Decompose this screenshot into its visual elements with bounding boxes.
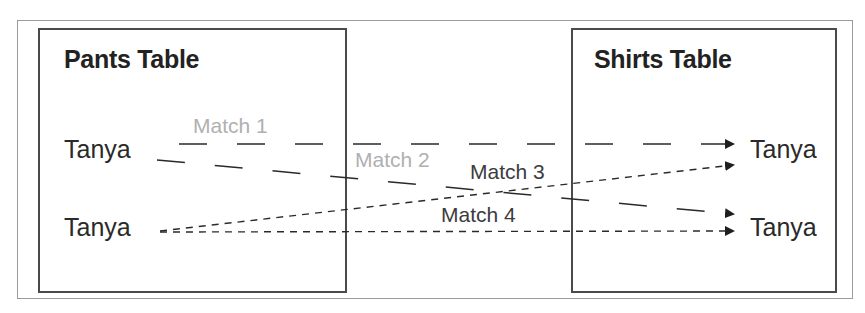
match-2-label: Match 2 <box>355 148 430 172</box>
match-4-label: Match 4 <box>441 203 516 227</box>
match-3-label: Match 3 <box>470 160 545 184</box>
match-1-label: Match 1 <box>193 114 268 138</box>
match-4-line <box>160 231 733 232</box>
match-connectors <box>0 0 865 313</box>
